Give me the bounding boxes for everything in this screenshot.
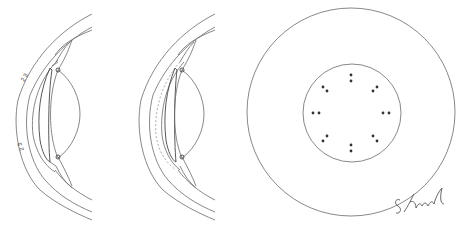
front-view	[247, 8, 455, 216]
outer-circle	[247, 8, 455, 216]
eye-cross-section-1: 2 3 2 3	[16, 14, 92, 220]
signature	[396, 188, 444, 213]
dot-pairs	[312, 74, 391, 153]
eye-diagram-figure: 2 3 2 3	[0, 0, 470, 231]
label-top: 2 3	[20, 72, 30, 83]
eye-cross-section-2	[139, 14, 215, 220]
label-bottom: 2 3	[16, 141, 25, 152]
